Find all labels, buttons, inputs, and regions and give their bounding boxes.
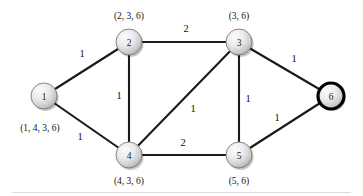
node-caption-1: (1, 4, 3, 6) [20,123,60,134]
edge-1-2 [44,42,129,96]
node-6[interactable]: 6 [318,83,346,111]
node-label-5: 5 [237,151,242,161]
edge-weight-3-4: 1 [190,103,195,114]
footer-divider [12,192,351,193]
edge-weight-3-6: 1 [291,53,296,64]
node-5[interactable]: 5 [226,142,254,170]
node-3[interactable]: 3 [226,29,254,57]
node-1[interactable]: 1 [31,83,59,111]
edge-weight-1-2: 1 [79,48,84,59]
node-label-1: 1 [42,92,47,102]
node-label-6: 6 [329,92,334,102]
edge-3-6 [239,42,331,96]
node-label-2: 2 [127,38,132,48]
node-caption-3: (3, 6) [229,11,250,22]
edge-weight-1-4: 1 [77,131,82,142]
edge-5-6 [239,96,331,155]
nodes-layer: 123456 [31,29,346,170]
edge-weight-3-5: 1 [245,93,250,104]
edge-weight-4-5: 2 [180,137,185,148]
edge-weight-5-6: 1 [274,112,279,123]
node-caption-2: (2, 3, 6) [114,11,144,22]
node-2[interactable]: 2 [116,29,144,57]
edge-weight-2-3: 2 [183,23,188,34]
node-label-4: 4 [127,151,132,161]
node-caption-4: (4, 3, 6) [114,176,144,187]
graph-canvas: 123456 112111121 (1, 4, 3, 6)(2, 3, 6)(3… [0,0,363,196]
node-4[interactable]: 4 [116,142,144,170]
node-label-3: 3 [237,38,242,48]
node-caption-5: (5, 6) [229,176,250,187]
edge-weight-2-4: 1 [116,90,121,101]
graph-figure: 123456 112111121 (1, 4, 3, 6)(2, 3, 6)(3… [0,0,363,196]
edges-layer [44,42,331,155]
